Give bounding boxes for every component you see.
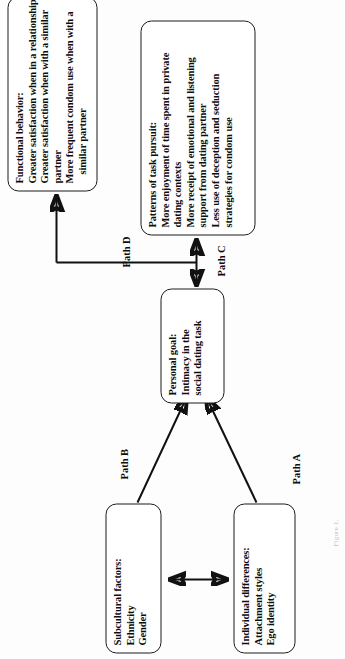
edge-path-b [137,397,186,502]
node-title: Personal goal: [166,296,179,395]
path-model-diagram: Individual differences: Attachment style… [0,0,345,659]
figure-page: Individual differences: Attachment style… [0,0,345,659]
node-line: More receipt of emotional and listening [184,28,197,227]
node-line: dating contexts [171,28,184,227]
node-title: Patterns of task pursuit: [146,28,159,227]
node-line: social dating task [191,296,204,395]
node-line: Greater satisfaction when with a similar [38,4,51,183]
node-functional-behavior[interactable]: Functional behavior: Greater satisfactio… [7,0,97,191]
figure-caption: Figure 1. [332,519,340,546]
node-individual-differences[interactable]: Individual differences: Attachment style… [233,503,295,653]
path-label-d: Path D [120,236,131,267]
node-line: Ego identity [264,511,277,645]
node-line: partner [51,4,64,183]
node-title: Individual differences: [239,511,252,645]
path-label-a: Path A [290,453,301,484]
edge-path-a [206,397,256,502]
node-line: Ethnicity [124,511,137,645]
node-personal-goal[interactable]: Personal goal: Intimacy in the social da… [160,288,224,403]
node-line: support from dating partner [196,28,209,227]
path-label-c: Path C [215,245,226,276]
rotated-figure-wrapper: Individual differences: Attachment style… [0,0,345,659]
node-line: More enjoyment of time spent in private [159,28,172,227]
node-line: Attachment styles [252,511,265,645]
node-line: More frequent condom use when with a [63,4,76,183]
node-patterns-of-task-pursuit[interactable]: Patterns of task pursuit: More enjoyment… [140,20,255,235]
node-line: Less use of deception and seduction [209,28,222,227]
node-title: Subcultural factors: [111,511,124,645]
node-line: similar partner [76,4,89,183]
node-line: Intimacy in the [179,296,192,395]
node-line: Gender [136,511,149,645]
figure-caption-strip: Figure 1. [329,415,343,650]
path-label-b: Path B [118,448,129,479]
node-line: Greater satisfaction when in a relations… [26,4,39,183]
node-line: strategies for condom use [222,28,235,227]
node-subcultural-factors[interactable]: Subcultural factors: Ethnicity Gender [105,503,161,653]
node-title: Functional behavior: [13,4,26,183]
